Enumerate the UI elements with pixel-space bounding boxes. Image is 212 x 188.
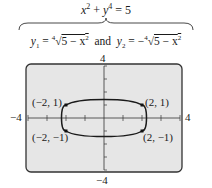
graph-plot xyxy=(0,0,212,188)
point-label-neg2-1: (−2, 1) xyxy=(32,96,62,108)
x-max-label: 4 xyxy=(185,111,191,123)
point-label-neg2-neg1: (−2, −1) xyxy=(32,131,68,143)
x-min-label: −4 xyxy=(10,111,22,123)
y-max-label: 4 xyxy=(100,52,106,64)
point-label-2-neg1: (2, −1) xyxy=(143,131,173,143)
y-min-label: −4 xyxy=(96,174,108,186)
point-label-2-1: (2, 1) xyxy=(145,96,169,108)
